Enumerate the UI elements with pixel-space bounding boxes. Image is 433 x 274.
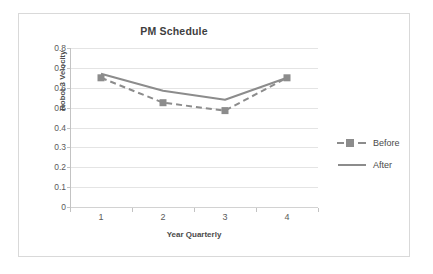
x-axis-tick-mark [132,208,133,212]
series-line-after [101,74,287,100]
y-axis-tick-mark [67,128,70,129]
chart-frame: PM Schedule Robot 3 Velocity 00.10.20.30… [18,13,410,257]
y-axis-tick-mark [67,48,70,49]
y-axis-tick-mark [67,187,70,188]
x-axis-tick-mark [256,208,257,212]
legend-item-after[interactable]: After [337,154,429,176]
solid-line-icon [337,159,367,171]
x-axis-tick-label: 1 [86,212,116,222]
x-axis-tick-mark [194,208,195,212]
x-axis-tick-labels: 1234 [70,212,318,226]
x-axis-tick-label: 2 [148,212,178,222]
y-axis-tick-mark [67,88,70,89]
data-point-marker [160,99,167,106]
x-axis-tick-mark [70,208,71,212]
y-axis-tick-mark [67,68,70,69]
data-point-marker [222,107,229,114]
y-axis-tick-mark [67,167,70,168]
y-axis-tick-mark [67,147,70,148]
y-axis-tick-mark [67,108,70,109]
chart-legend: Before After [337,132,429,176]
x-axis-tick-label: 3 [210,212,240,222]
legend-label-after: After [373,160,392,170]
x-axis-tick-label: 4 [272,212,302,222]
x-axis-title: Year Quarterly [70,230,318,239]
dashed-line-marker-icon [337,137,367,149]
legend-label-before: Before [373,138,400,148]
x-axis-tick-mark [318,208,319,212]
legend-item-before[interactable]: Before [337,132,429,154]
